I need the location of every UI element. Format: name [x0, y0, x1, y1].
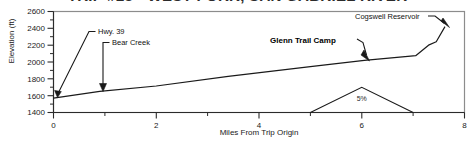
chart-screenshot: TRIP #23 - WEST FORK, SAN GABRIEL RIVER …	[0, 0, 475, 145]
annotation-glenn-trail-camp: Glenn Trail Camp	[270, 36, 370, 61]
y-tick-label: 1800	[27, 75, 45, 84]
arrowhead-icon	[441, 18, 450, 28]
y-tick-label: 2200	[27, 41, 45, 50]
y-tick-label: 2400	[27, 24, 45, 33]
x-tick-label: 4	[257, 121, 262, 130]
plot-canvas: 1400 1600 1800 2000 2200 2400 2600 0 2 4…	[0, 0, 475, 145]
annotation-label: Cogswell Reservoir	[355, 12, 420, 21]
y-tick-label: 2600	[27, 7, 45, 16]
x-tick-label: 8	[462, 121, 467, 130]
grade-percent-label: 5%	[357, 95, 367, 102]
x-axis-tick-labels: 0 2 4 6 8	[51, 121, 467, 130]
y-axis-tick-labels: 1400 1600 1800 2000 2200 2400 2600	[27, 7, 45, 117]
annotation-label: Hwy. 39	[98, 27, 125, 36]
x-tick-label: 2	[154, 121, 159, 130]
x-axis-ticks	[54, 113, 465, 119]
annotation-bear-creek: Bear Creek	[100, 38, 151, 92]
annotation-label: Glenn Trail Camp	[270, 36, 336, 45]
arrowhead-icon	[55, 90, 62, 97]
annotation-cogswell-reservoir: Cogswell Reservoir	[355, 12, 450, 28]
leader-line	[103, 43, 110, 88]
arrowhead-icon	[100, 84, 107, 92]
y-tick-label: 2000	[27, 58, 45, 67]
y-tick-label: 1600	[27, 92, 45, 101]
x-tick-label: 0	[51, 121, 56, 130]
annotation-label: Bear Creek	[112, 38, 150, 47]
y-tick-label: 1400	[27, 108, 45, 117]
leader-line	[58, 32, 96, 95]
x-tick-label: 6	[360, 121, 365, 130]
y-axis-ticks	[48, 12, 54, 113]
